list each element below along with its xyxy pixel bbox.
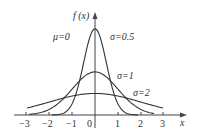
sigma-1-label: σ=1 — [117, 70, 134, 81]
normal-distribution-chart: f (x) x μ=0 σ=0.5 σ=1 σ=2 −3 −2 −1 0 1 2… — [0, 0, 198, 139]
tick-label: 2 — [138, 118, 143, 129]
mu-label: μ=0 — [52, 31, 70, 42]
sigma-2-label: σ=2 — [133, 87, 150, 98]
tick-label: −3 — [19, 118, 30, 129]
x-tick-labels: −3 −2 −1 0 1 2 3 — [19, 118, 165, 129]
tick-label: 0 — [87, 118, 92, 129]
tick-label: −2 — [42, 118, 53, 129]
tick-label: 3 — [160, 118, 165, 129]
sigma-0.5-label: σ=0.5 — [110, 31, 134, 42]
y-axis-arrow-icon — [93, 12, 98, 19]
tick-label: −1 — [66, 118, 77, 129]
tick-label: 1 — [115, 118, 120, 129]
y-axis-label: f (x) — [73, 10, 90, 22]
x-axis-label: x — [179, 117, 185, 128]
